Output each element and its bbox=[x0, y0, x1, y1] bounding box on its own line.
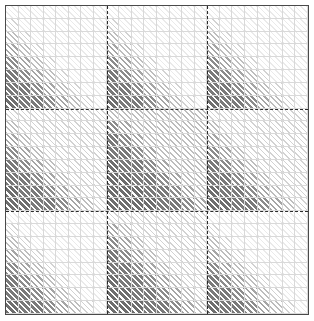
matrix-cell bbox=[195, 263, 208, 276]
matrix-cell bbox=[19, 134, 32, 147]
matrix-cell bbox=[232, 224, 245, 237]
matrix-cell bbox=[132, 134, 145, 147]
matrix-cell bbox=[69, 237, 82, 250]
matrix-cell bbox=[170, 275, 183, 288]
matrix-cell bbox=[195, 32, 208, 45]
matrix-cell bbox=[144, 121, 157, 134]
matrix-cell bbox=[44, 250, 57, 263]
matrix-cell bbox=[270, 263, 283, 276]
matrix-cell bbox=[220, 147, 233, 160]
matrix-cell bbox=[283, 237, 296, 250]
matrix-cell bbox=[195, 6, 208, 19]
matrix-cell bbox=[69, 83, 82, 96]
matrix-cell bbox=[19, 32, 32, 45]
matrix-cell bbox=[107, 211, 120, 224]
matrix-cell bbox=[132, 160, 145, 173]
matrix-cell bbox=[6, 32, 19, 45]
matrix-cell bbox=[295, 211, 308, 224]
matrix-cell bbox=[94, 44, 107, 57]
matrix-cell bbox=[232, 83, 245, 96]
matrix-cell bbox=[19, 109, 32, 122]
matrix-cell bbox=[270, 6, 283, 19]
matrix-cell bbox=[295, 109, 308, 122]
matrix-cell bbox=[182, 6, 195, 19]
matrix-cell bbox=[170, 237, 183, 250]
matrix-cell bbox=[144, 134, 157, 147]
matrix-cell bbox=[19, 198, 32, 211]
matrix-cell bbox=[132, 83, 145, 96]
matrix-cell bbox=[283, 109, 296, 122]
matrix-cell bbox=[44, 57, 57, 70]
matrix-cell bbox=[258, 6, 271, 19]
matrix-cell bbox=[258, 186, 271, 199]
matrix-cell bbox=[69, 96, 82, 109]
matrix-cell bbox=[107, 57, 120, 70]
matrix-cell bbox=[44, 19, 57, 32]
matrix-cell bbox=[81, 70, 94, 83]
matrix-cell bbox=[132, 96, 145, 109]
matrix-cell bbox=[207, 121, 220, 134]
matrix-cell bbox=[245, 6, 258, 19]
matrix-cell bbox=[195, 186, 208, 199]
matrix-cell bbox=[245, 186, 258, 199]
matrix-cell bbox=[44, 275, 57, 288]
matrix-cell bbox=[157, 6, 170, 19]
matrix-cell bbox=[119, 70, 132, 83]
matrix-cell bbox=[144, 288, 157, 301]
matrix-cell bbox=[81, 109, 94, 122]
matrix-cell bbox=[107, 83, 120, 96]
matrix-cell bbox=[31, 134, 44, 147]
matrix-cell bbox=[81, 250, 94, 263]
matrix-cell bbox=[283, 288, 296, 301]
matrix-cell bbox=[220, 275, 233, 288]
matrix-cell bbox=[119, 211, 132, 224]
matrix-cell bbox=[19, 96, 32, 109]
matrix-cell bbox=[182, 19, 195, 32]
matrix-cell bbox=[144, 211, 157, 224]
matrix-cell bbox=[195, 134, 208, 147]
matrix-cell bbox=[295, 186, 308, 199]
matrix-cell bbox=[31, 109, 44, 122]
matrix-cell bbox=[283, 198, 296, 211]
matrix-cell bbox=[295, 19, 308, 32]
matrix-cell bbox=[19, 57, 32, 70]
matrix-cell bbox=[182, 186, 195, 199]
matrix-cell bbox=[283, 6, 296, 19]
matrix-cell bbox=[258, 211, 271, 224]
matrix-cell bbox=[56, 96, 69, 109]
matrix-cell bbox=[258, 301, 271, 314]
matrix-cell bbox=[107, 6, 120, 19]
matrix-cell bbox=[144, 186, 157, 199]
matrix-cell bbox=[44, 96, 57, 109]
matrix-cell bbox=[207, 6, 220, 19]
matrix-cell bbox=[232, 109, 245, 122]
matrix-cell bbox=[232, 173, 245, 186]
matrix-cell bbox=[31, 160, 44, 173]
matrix-cell bbox=[245, 263, 258, 276]
matrix-cell bbox=[258, 96, 271, 109]
matrix-cell bbox=[245, 83, 258, 96]
matrix-cell bbox=[44, 301, 57, 314]
matrix-cell bbox=[157, 109, 170, 122]
matrix-cell bbox=[195, 83, 208, 96]
matrix-cell bbox=[295, 263, 308, 276]
matrix-cell bbox=[144, 109, 157, 122]
matrix-cell bbox=[69, 6, 82, 19]
matrix-cell bbox=[107, 147, 120, 160]
matrix-cell bbox=[6, 275, 19, 288]
matrix-cell bbox=[245, 224, 258, 237]
matrix-cell bbox=[283, 70, 296, 83]
matrix-cell bbox=[283, 44, 296, 57]
matrix-cell bbox=[195, 57, 208, 70]
matrix-cell bbox=[69, 186, 82, 199]
matrix-cell bbox=[69, 224, 82, 237]
matrix-cell bbox=[69, 211, 82, 224]
matrix-cell bbox=[107, 224, 120, 237]
matrix-cell bbox=[19, 263, 32, 276]
matrix-cell bbox=[295, 198, 308, 211]
matrix-cell bbox=[31, 275, 44, 288]
matrix-cell bbox=[94, 237, 107, 250]
matrix-cell bbox=[56, 186, 69, 199]
matrix-cell bbox=[69, 263, 82, 276]
matrix-cell bbox=[144, 301, 157, 314]
